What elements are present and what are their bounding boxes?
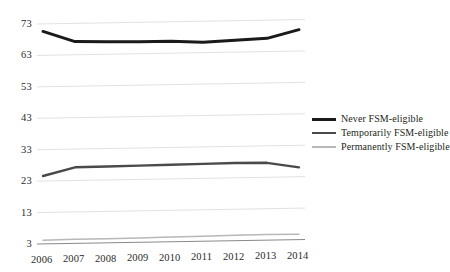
legend-item-label: Temporarily FSM-eligible bbox=[341, 127, 449, 139]
legend-item-label: Never FSM-eligible bbox=[341, 113, 423, 125]
y-tick-label: 13 bbox=[21, 207, 32, 218]
y-tick-label: 3 bbox=[27, 238, 32, 249]
series-line bbox=[43, 30, 299, 43]
legend-item-label: Permanently FSM-eligible bbox=[341, 141, 450, 153]
x-axis: 2006 2007 2008 2009 2010 2011 2012 2013 … bbox=[37, 252, 312, 268]
x-tick-label: 2014 bbox=[287, 250, 308, 262]
y-tick-label: 73 bbox=[21, 18, 32, 29]
x-tick-label: 2012 bbox=[223, 251, 244, 263]
y-tick-label: 33 bbox=[21, 144, 32, 155]
y-tick-label: 63 bbox=[21, 49, 32, 60]
series-line bbox=[43, 234, 299, 240]
legend-line-swatch-icon bbox=[312, 132, 336, 135]
y-axis: 73 63 53 43 33 23 13 3 bbox=[0, 0, 37, 272]
legend-item-never-fsm-eligible: Never FSM-eligible bbox=[312, 112, 447, 126]
y-tick-label: 23 bbox=[21, 175, 32, 186]
x-tick-label: 2007 bbox=[63, 253, 84, 265]
plot-area bbox=[37, 8, 305, 250]
x-tick-label: 2011 bbox=[191, 251, 212, 263]
series-line bbox=[43, 163, 299, 176]
legend-item-temporarily-fsm-eligible: Temporarily FSM-eligible bbox=[312, 126, 447, 140]
x-tick-label: 2010 bbox=[159, 252, 180, 264]
y-tick-label: 53 bbox=[21, 81, 32, 92]
legend-line-swatch-icon bbox=[312, 146, 336, 148]
x-tick-label: 2008 bbox=[95, 253, 116, 265]
legend-item-permanently-fsm-eligible: Permanently FSM-eligible bbox=[312, 140, 447, 154]
y-tick-label: 43 bbox=[21, 112, 32, 123]
legend-line-swatch-icon bbox=[312, 118, 336, 121]
x-tick-label: 2013 bbox=[255, 250, 276, 262]
x-tick-label: 2006 bbox=[31, 254, 52, 266]
series-layer bbox=[37, 8, 305, 250]
legend: Never FSM-eligible Temporarily FSM-eligi… bbox=[312, 112, 447, 154]
x-tick-label: 2009 bbox=[127, 252, 148, 264]
